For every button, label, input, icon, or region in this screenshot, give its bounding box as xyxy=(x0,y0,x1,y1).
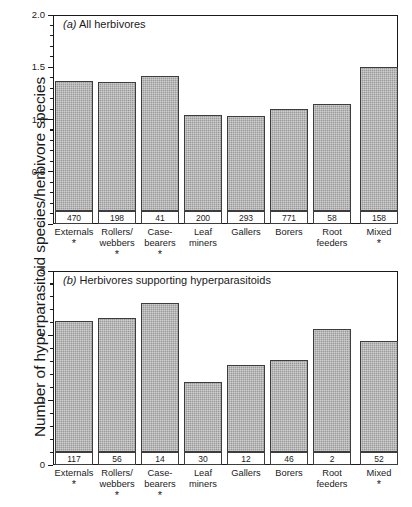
panel-a-title: (a) All herbivores xyxy=(63,18,146,30)
y-tick-label-a-3: 1.5 xyxy=(21,61,45,72)
x-category-label-b-7: Mixed xyxy=(351,468,407,479)
y-tick-minor-b xyxy=(50,348,53,349)
y-tick-minor-b xyxy=(50,361,53,362)
y-tick-minor-b xyxy=(50,413,53,414)
sample-size-box-a-1: 198 xyxy=(98,211,136,224)
y-tick-label-b-2: 2 xyxy=(21,330,45,341)
y-tick-minor-a xyxy=(50,213,53,214)
panel-a-letter: (a) xyxy=(63,18,76,30)
y-tick-minor-a xyxy=(50,56,53,57)
sample-size-box-b-2: 14 xyxy=(141,452,179,465)
significance-marker-b-7: * xyxy=(351,479,407,489)
y-tick-minor-b xyxy=(50,296,53,297)
panel-b-title-text: Herbivores supporting hyperparasitoids xyxy=(80,274,271,286)
y-tick-major-a-2 xyxy=(48,119,53,120)
sample-size-box-b-4: 12 xyxy=(227,452,265,465)
bar-b-1 xyxy=(98,318,136,452)
y-tick-minor-a xyxy=(50,140,53,141)
y-tick-label-a-2: 1.0 xyxy=(21,114,45,125)
bar-b-7 xyxy=(360,341,398,452)
sample-size-box-b-7: 52 xyxy=(360,452,398,465)
bar-a-0 xyxy=(55,81,93,211)
y-tick-minor-a xyxy=(50,182,53,183)
y-axis-title: Number of hyperparasitoid species/herbiv… xyxy=(31,42,49,472)
bar-b-3 xyxy=(184,382,222,452)
y-tick-minor-b xyxy=(50,452,53,453)
sample-size-box-b-1: 56 xyxy=(98,452,136,465)
panel-a-title-text: All herbivores xyxy=(79,18,146,30)
y-tick-label-b-0: 0 xyxy=(21,459,45,470)
y-tick-major-a-3 xyxy=(48,67,53,68)
y-tick-major-a-4 xyxy=(48,15,53,16)
y-tick-major-a-0 xyxy=(48,224,53,225)
sample-size-box-b-3: 30 xyxy=(184,452,222,465)
y-tick-minor-a xyxy=(50,150,53,151)
sample-size-box-a-7: 158 xyxy=(360,211,398,224)
y-tick-label-b-3: 3 xyxy=(21,265,45,276)
y-tick-minor-a xyxy=(50,88,53,89)
y-tick-major-a-1 xyxy=(48,171,53,172)
bar-b-6 xyxy=(313,329,351,452)
bar-b-5 xyxy=(270,360,308,452)
y-tick-major-b-3 xyxy=(48,271,53,272)
y-tick-label-b-1: 1 xyxy=(21,394,45,405)
sample-size-box-b-0: 117 xyxy=(55,452,93,465)
sample-size-box-a-6: 58 xyxy=(313,211,351,224)
y-tick-label-a-1: 0.5 xyxy=(21,166,45,177)
sample-size-box-a-4: 293 xyxy=(227,211,265,224)
y-tick-minor-a xyxy=(50,35,53,36)
y-tick-label-a-4: 2.0 xyxy=(21,9,45,20)
y-tick-minor-a xyxy=(50,129,53,130)
y-tick-minor-a xyxy=(50,203,53,204)
y-tick-minor-b xyxy=(50,439,53,440)
sample-size-box-b-5: 46 xyxy=(270,452,308,465)
significance-marker-a-7: * xyxy=(351,238,407,248)
bar-a-3 xyxy=(184,115,222,211)
bar-a-7 xyxy=(360,67,398,211)
y-tick-minor-b xyxy=(50,374,53,375)
y-tick-major-b-1 xyxy=(48,400,53,401)
y-tick-minor-b xyxy=(50,426,53,427)
y-tick-major-b-2 xyxy=(48,335,53,336)
panel-b-title: (b) Herbivores supporting hyperparasitoi… xyxy=(63,274,271,286)
y-tick-minor-b xyxy=(50,309,53,310)
y-tick-minor-a xyxy=(50,109,53,110)
bar-a-5 xyxy=(270,109,308,211)
y-tick-label-a-0: 0 xyxy=(21,218,45,229)
y-tick-minor-a xyxy=(50,46,53,47)
sample-size-box-b-6: 2 xyxy=(313,452,351,465)
y-tick-minor-a xyxy=(50,192,53,193)
sample-size-box-a-3: 200 xyxy=(184,211,222,224)
y-tick-minor-b xyxy=(50,283,53,284)
y-tick-minor-b xyxy=(50,387,53,388)
y-tick-minor-a xyxy=(50,25,53,26)
x-category-label-a-7: Mixed xyxy=(351,227,407,238)
figure-canvas: Number of hyperparasitoid species/herbiv… xyxy=(0,0,412,507)
y-tick-major-b-0 xyxy=(48,465,53,466)
sample-size-box-a-0: 470 xyxy=(55,211,93,224)
significance-marker-a-2: * xyxy=(132,249,188,259)
bar-b-4 xyxy=(227,365,265,452)
panel-b-letter: (b) xyxy=(63,274,76,286)
sample-size-box-a-2: 41 xyxy=(141,211,179,224)
bar-a-2 xyxy=(141,76,179,211)
bar-a-6 xyxy=(313,104,351,211)
sample-size-box-a-5: 771 xyxy=(270,211,308,224)
y-tick-minor-b xyxy=(50,322,53,323)
y-tick-minor-a xyxy=(50,161,53,162)
y-tick-minor-a xyxy=(50,77,53,78)
bar-a-1 xyxy=(98,82,136,211)
y-tick-minor-a xyxy=(50,98,53,99)
bar-a-4 xyxy=(227,116,265,211)
significance-marker-b-2: * xyxy=(132,490,188,500)
bar-b-2 xyxy=(141,303,179,452)
bar-b-0 xyxy=(55,321,93,452)
